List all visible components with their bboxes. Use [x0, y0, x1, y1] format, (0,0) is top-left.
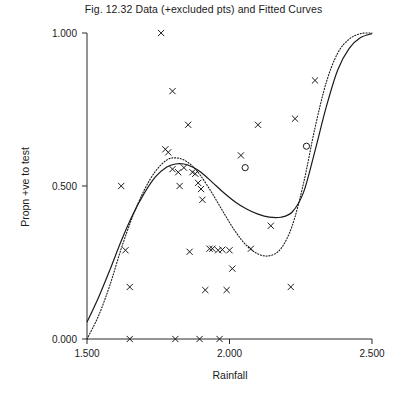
- data-point-x: [165, 149, 171, 155]
- data-point-x: [288, 284, 294, 290]
- data-point-x: [202, 287, 208, 293]
- data-point-x: [169, 166, 175, 172]
- data-point-x: [181, 165, 187, 171]
- y-tick-label: 1.000: [52, 28, 77, 39]
- x-tick-label: 2.000: [217, 348, 242, 359]
- x-tick-label: 1.500: [74, 348, 99, 359]
- figure-container: Fig. 12.32 Data (+excluded pts) and Fitt…: [0, 0, 407, 393]
- data-point-x: [195, 180, 201, 186]
- y-tick-label: 0.000: [52, 334, 77, 345]
- data-point-x: [199, 197, 205, 203]
- data-point-x: [158, 30, 164, 36]
- scatter-plot: 1.5002.0002.5000.0000.5001.000 Rainfall …: [0, 0, 407, 393]
- data-point-excluded: [303, 143, 309, 149]
- y-axis-title: Propn +ve to test: [19, 147, 31, 227]
- data-point-x: [312, 77, 318, 83]
- data-point-x: [187, 249, 193, 255]
- data-point-x: [169, 88, 175, 94]
- curve-solid: [87, 34, 372, 323]
- data-point-x: [224, 287, 230, 293]
- data-point-x: [175, 169, 181, 175]
- data-point-x: [192, 171, 198, 177]
- data-point-x: [219, 247, 225, 253]
- data-point-x: [248, 246, 254, 252]
- axis-ticks: [82, 33, 372, 344]
- y-tick-label: 0.500: [52, 181, 77, 192]
- data-point-x: [255, 122, 261, 128]
- data-point-x: [229, 266, 235, 272]
- data-point-x: [226, 247, 232, 253]
- data-point-excluded: [242, 165, 248, 171]
- x-axis-title: Rainfall: [212, 369, 247, 381]
- data-point-x: [127, 284, 133, 290]
- data-point-x: [118, 183, 124, 189]
- data-point-x: [292, 116, 298, 122]
- data-point-x: [185, 122, 191, 128]
- data-point-x: [177, 183, 183, 189]
- data-point-x: [198, 186, 204, 192]
- data-point-x: [238, 152, 244, 158]
- data-point-x: [268, 223, 274, 229]
- data-point-x: [122, 247, 128, 253]
- x-tick-label: 2.500: [359, 348, 384, 359]
